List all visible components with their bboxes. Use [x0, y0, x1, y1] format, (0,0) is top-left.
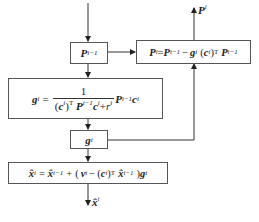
output-x-label: x̂i: [92, 196, 99, 208]
minus: −: [89, 168, 95, 179]
g-node: gi: [70, 130, 108, 149]
x-update-node: x̂i = x̂i−1 + (vi − (ci)T x̂i−1 )gi: [8, 162, 168, 184]
minus: −: [182, 47, 188, 58]
denominator: (ci)T Pi−1ci+ri: [55, 99, 112, 112]
p-symbol: P: [149, 47, 155, 58]
g-symbol: g: [85, 134, 91, 146]
p-symbol: P: [115, 93, 122, 105]
fraction: 1 (ci)T Pi−1ci+ri: [55, 85, 112, 112]
p-symbol: P: [76, 100, 83, 112]
p-symbol: P: [221, 47, 227, 58]
sup: i: [205, 3, 207, 11]
p-symbol: P: [81, 47, 88, 59]
sup: i: [110, 99, 112, 107]
p-prev-node: Pi−1: [70, 42, 108, 64]
p-symbol: P: [164, 47, 170, 58]
eq: =: [39, 168, 45, 179]
sup: i: [98, 195, 100, 203]
eq: =: [43, 93, 49, 105]
output-p-label: Pi: [198, 4, 207, 16]
g-symbol: g: [32, 93, 38, 105]
numerator: 1: [53, 85, 114, 99]
sup: i−1: [83, 99, 93, 107]
gain-node: gi = 1 (ci)T Pi−1ci+ri Pi−1ci: [8, 78, 163, 119]
lparen: (: [75, 168, 79, 179]
transpose: T: [69, 99, 73, 107]
plus: +: [66, 168, 72, 179]
p-symbol: P: [198, 4, 205, 16]
p-update-node: Pi = Pi−1 − gi (ci)T Pi−1: [136, 40, 251, 64]
